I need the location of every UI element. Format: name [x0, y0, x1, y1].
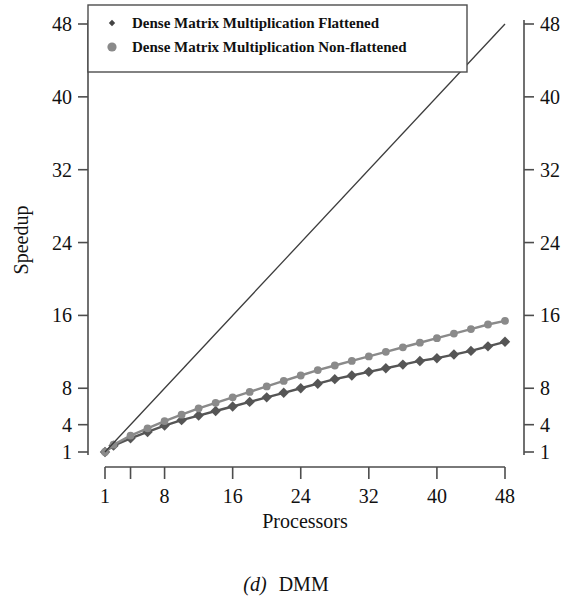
y-tick-label: 8: [62, 377, 72, 399]
legend-label: Dense Matrix Multiplication Flattened: [132, 15, 380, 31]
data-point: [280, 377, 288, 385]
x-tick-label: 48: [495, 485, 515, 507]
data-point: [433, 334, 441, 342]
data-point: [330, 374, 340, 384]
y-tick-label: 1: [540, 441, 550, 463]
data-point: [127, 432, 135, 440]
data-point: [227, 401, 237, 411]
data-point: [178, 411, 186, 419]
x-tick-label: 16: [223, 485, 243, 507]
y-tick-label: 24: [540, 232, 560, 254]
legend: Dense Matrix Multiplication FlattenedDen…: [88, 5, 467, 72]
series-flattened: [100, 337, 510, 458]
data-point: [244, 397, 254, 407]
data-point: [467, 325, 475, 333]
data-point: [415, 356, 425, 366]
data-point: [229, 393, 237, 401]
y-tick-label: 16: [52, 304, 72, 326]
data-point: [381, 363, 391, 373]
data-point: [212, 399, 220, 407]
data-point: [347, 370, 357, 380]
data-point: [449, 349, 459, 359]
data-point: [348, 357, 356, 365]
y-tick-label: 16: [540, 304, 560, 326]
y-tick-label: 48: [52, 13, 72, 35]
right-axis-ticks: [524, 24, 534, 452]
y-tick-label: 40: [540, 86, 560, 108]
x-tick-label: 32: [359, 485, 379, 507]
data-point: [364, 367, 374, 377]
x-tick-label: 8: [160, 485, 170, 507]
x-tick-label: 1: [100, 485, 110, 507]
data-point: [313, 379, 323, 389]
y-tick-label: 24: [52, 232, 72, 254]
data-point: [246, 388, 254, 396]
data-point: [432, 353, 442, 363]
caption-prefix: (d): [243, 573, 267, 596]
data-point: [210, 406, 220, 416]
data-point: [262, 392, 272, 402]
caption-text: DMM: [279, 573, 329, 595]
data-point: [297, 372, 305, 380]
left-axis-ticks: [78, 24, 88, 452]
legend-marker-circle: [107, 42, 116, 51]
y-tick-label: 40: [52, 86, 72, 108]
legend-label: Dense Matrix Multiplication Non-flattene…: [132, 39, 407, 55]
data-point: [314, 366, 322, 374]
y-tick-label: 48: [540, 13, 560, 35]
data-point: [195, 404, 203, 412]
data-point: [365, 352, 373, 360]
data-point: [466, 346, 476, 356]
data-point: [296, 383, 306, 393]
data-point: [144, 424, 152, 432]
series-line: [105, 342, 505, 452]
data-point: [484, 321, 492, 329]
y-tick-label: 4: [62, 414, 72, 436]
y-axis-title: Speedup: [10, 206, 33, 275]
left-axis-tick-labels: 1481624324048: [52, 13, 72, 463]
data-point: [399, 343, 407, 351]
data-point: [416, 339, 424, 347]
data-point: [263, 383, 271, 391]
x-axis-title: Processors: [262, 510, 348, 532]
y-tick-label: 32: [52, 159, 72, 181]
data-point: [331, 362, 339, 370]
y-tick-label: 32: [540, 159, 560, 181]
data-point: [161, 417, 169, 425]
bottom-axis-tick-labels: 181624324048: [100, 485, 515, 507]
y-tick-label: 4: [540, 414, 550, 436]
data-point: [382, 348, 390, 356]
figure-caption: (d) DMM: [243, 573, 329, 596]
figure-dmm-speedup: 1481624324048 1481624324048 181624324048…: [0, 0, 573, 602]
x-tick-label: 40: [427, 485, 447, 507]
series-layer: [100, 24, 510, 457]
data-point: [500, 337, 510, 347]
right-axis-tick-labels: 1481624324048: [540, 13, 560, 463]
y-tick-label: 8: [540, 377, 550, 399]
data-point: [501, 317, 509, 325]
x-tick-label: 24: [291, 485, 311, 507]
data-point: [279, 388, 289, 398]
data-point: [398, 359, 408, 369]
data-point: [450, 330, 458, 338]
speedup-chart: 1481624324048 1481624324048 181624324048…: [0, 0, 573, 602]
bottom-axis-ticks: [105, 467, 505, 479]
y-tick-label: 1: [62, 441, 72, 463]
data-point: [483, 341, 493, 351]
